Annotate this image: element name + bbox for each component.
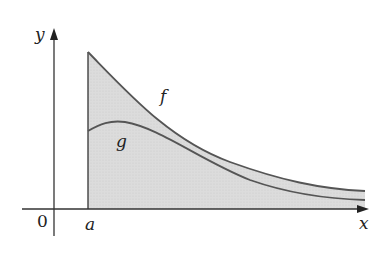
y-axis-label: y	[35, 26, 45, 43]
shaded-region	[88, 52, 365, 209]
f-label: f	[160, 88, 166, 105]
area-between-curves-figure: y x 0 a f g	[0, 0, 386, 260]
y-axis-arrow-icon	[50, 28, 58, 40]
x-axis-label: x	[359, 215, 369, 232]
a-label: a	[85, 216, 95, 233]
g-label: g	[116, 133, 127, 150]
origin-label: 0	[37, 213, 48, 230]
